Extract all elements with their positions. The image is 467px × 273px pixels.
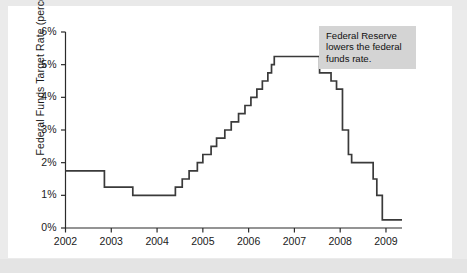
annotation-line-2: lowers the federal [326,41,410,52]
y-tick-label: 6% [25,25,57,37]
series-line-federal-funds-target-rate [66,57,403,220]
x-tick-label: 2006 [226,235,272,247]
x-tick-label: 2004 [134,235,180,247]
y-tick-label: 5% [25,58,57,70]
x-tick-label: 2002 [43,235,89,247]
y-tick-label: 0% [25,221,57,233]
y-axis-title: Federal Funds Target Rate (percent) [30,0,46,159]
screenshot-root: Federal Funds Target Rate (percent) 0%1%… [0,0,467,273]
page-background-bottom [0,259,467,273]
annotation-callout: Federal Reserve lowers the federal funds… [319,26,416,69]
x-tick-label: 2008 [317,235,363,247]
annotation-line-3: funds rate. [326,53,410,64]
y-tick-label: 3% [25,123,57,135]
x-tick-label: 2005 [180,235,226,247]
chart-panel: Federal Funds Target Rate (percent) 0%1%… [8,6,452,258]
y-tick-label: 2% [25,156,57,168]
y-axis-ticks [61,32,66,228]
y-tick-label: 1% [25,188,57,200]
y-tick-label: 4% [25,90,57,102]
x-tick-label: 2003 [88,235,134,247]
annotation-line-1: Federal Reserve [326,30,410,41]
x-axis-ticks [66,228,386,233]
x-tick-label: 2009 [363,235,409,247]
x-tick-label: 2007 [271,235,317,247]
